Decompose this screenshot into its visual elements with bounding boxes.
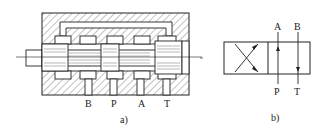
- spool-stem: [26, 50, 42, 66]
- valve-symbol: [200, 32, 310, 84]
- spool-land-1: [42, 44, 68, 71]
- chamber-lower-4: [134, 71, 150, 79]
- symbol-label-P: P: [274, 86, 280, 97]
- chamber-lower-2: [80, 71, 96, 79]
- spool-land-2: [101, 44, 119, 71]
- port-label-A: A: [138, 98, 146, 109]
- symbol-label-A: A: [274, 21, 282, 32]
- port-duct-B: [85, 79, 92, 95]
- symbol-label-B: B: [294, 21, 301, 32]
- chamber-upper-3: [107, 36, 123, 44]
- port-label-P: P: [111, 98, 117, 109]
- port-duct-T: [163, 79, 170, 95]
- valve-section: [16, 13, 202, 95]
- chamber-upper-1: [55, 36, 71, 44]
- chamber-lower-1: [55, 71, 71, 79]
- end-cap: [182, 41, 189, 74]
- chamber-upper-4: [134, 36, 150, 44]
- port-duct-A: [137, 79, 144, 95]
- valve-diagram: B P A T a) A B P T b): [0, 0, 326, 135]
- port-duct-P: [110, 79, 117, 95]
- symbol-label-T: T: [294, 86, 300, 97]
- chamber-upper-2: [80, 36, 96, 44]
- spool-land-3: [155, 41, 182, 74]
- port-label-T: T: [164, 98, 170, 109]
- caption-b: b): [271, 112, 279, 124]
- caption-a: a): [120, 114, 128, 126]
- chamber-lower-3: [107, 71, 123, 79]
- port-label-B: B: [85, 98, 92, 109]
